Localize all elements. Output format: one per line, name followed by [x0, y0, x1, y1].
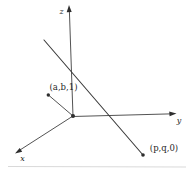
- y-axis-line: [73, 114, 170, 117]
- normal-point-label: (a,b,1): [50, 82, 78, 92]
- x-axis-label: x: [20, 154, 25, 163]
- space-line: [44, 40, 143, 155]
- x-axis-line: [20, 116, 73, 150]
- y-axis-arrowhead-icon: [169, 112, 176, 117]
- scan-artifact-line: [8, 167, 186, 168]
- z-axis-label: z: [58, 7, 64, 16]
- line-endpoint: [141, 153, 145, 157]
- coordinate-diagram: z y x (a,b,1) (p,q,0): [0, 0, 186, 169]
- normal-vector-point: [47, 93, 50, 96]
- y-axis-label: y: [176, 116, 182, 125]
- origin-point: [71, 114, 75, 118]
- diagram-canvas: z y x (a,b,1) (p,q,0): [0, 0, 186, 169]
- z-axis-arrowhead-icon: [67, 5, 72, 12]
- z-axis-line: [69, 11, 73, 116]
- line-point-label: (p,q,0): [150, 143, 178, 153]
- normal-vector-line: [49, 96, 73, 117]
